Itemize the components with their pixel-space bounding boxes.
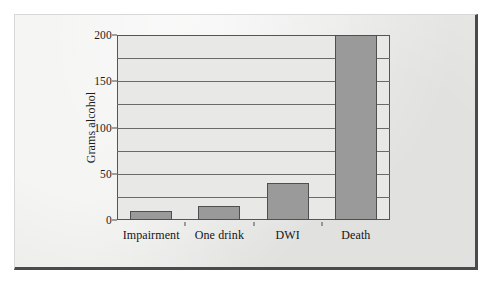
y-tick-label-50: 50 [100, 168, 112, 180]
x-axis-label-one-drink: One drink [195, 228, 244, 243]
y-tick-mark-0 [112, 220, 117, 221]
x-axis-labels: ImpairmentOne drinkDWIDeath [117, 222, 390, 242]
x-tick-mark-2 [253, 222, 254, 226]
y-tick-mark-50 [112, 173, 117, 174]
x-axis-label-impairment: Impairment [123, 228, 180, 243]
y-tick-label-0: 0 [106, 214, 112, 226]
y-tick-mark-200 [112, 35, 117, 36]
bar-one-drink [198, 206, 240, 220]
y-tick-mark-150 [112, 81, 117, 82]
x-tick-mark-3 [321, 222, 322, 226]
x-tick-mark-1 [185, 222, 186, 226]
y-tick-mark-100 [112, 127, 117, 128]
bar-impairment [130, 211, 172, 220]
y-tick-label-200: 200 [94, 29, 112, 41]
y-tick-label-150: 150 [94, 75, 112, 87]
bar-death [335, 35, 377, 220]
x-axis-label-dwi: DWI [275, 228, 299, 243]
bar-dwi [267, 183, 309, 220]
scanned-figure-page: Grams alcohol 050100150200 ImpairmentOne… [0, 0, 493, 287]
x-axis-label-death: Death [341, 228, 370, 243]
y-tick-label-100: 100 [94, 122, 112, 134]
chart-plot-area: 050100150200 [117, 35, 390, 220]
